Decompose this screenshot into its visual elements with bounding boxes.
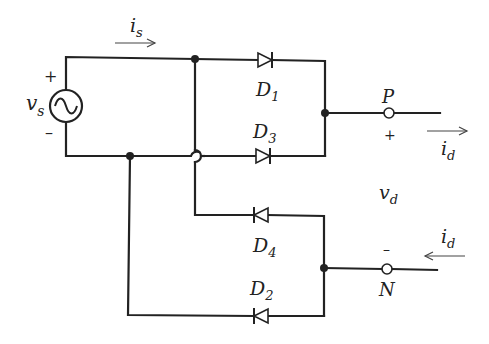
label-is: is [130,14,143,40]
wire-left-down [128,156,253,316]
source-plus-sign: + [44,67,57,86]
label-id-out: id [441,137,455,163]
label-d4: D4 [252,234,277,260]
junction-dot-top [191,55,199,63]
arrow-id-out-icon [427,127,467,135]
label-vs: vs [26,91,45,119]
ac-source-icon [50,90,82,122]
terminal-n [382,264,392,274]
junction-dot-n-node [320,264,328,272]
label-vd: vd [379,181,398,207]
junction-dot-bottom-left [126,152,134,160]
label-d3: D3 [252,120,277,146]
wire-source-top [66,57,195,89]
terminal-p [384,108,394,118]
label-d1: D1 [255,78,280,104]
wire-n-out [392,269,437,270]
label-terminal-n: N [378,279,396,300]
rectifier-circuit-diagram: is + – vs D1 D3 D4 D2 P + N – vd id id [0,0,489,344]
diode-d2-icon [254,308,268,324]
junction-dot-p-node [321,109,329,117]
arrow-is-icon [115,39,155,47]
wire-vertical-mid [195,59,253,215]
label-id-in: id [441,225,455,251]
wire-source-bottom [66,123,186,156]
wire-top-to-d1 [195,59,258,60]
wire-crossover-hop [186,152,199,156]
diode-d3-icon [256,148,270,164]
diode-d4-icon [254,207,268,223]
wire-to-n [324,268,382,269]
label-terminal-p: P [381,86,395,107]
wire-d1-to-right [272,60,325,156]
source-minus-sign: – [45,123,53,142]
diode-d1-icon [258,52,272,68]
terminal-p-plus-sign: + [384,127,396,143]
arrow-id-in-icon [425,252,465,260]
terminal-n-minus-sign: – [383,241,390,257]
wire-d4-to-right [267,215,324,316]
label-d2: D2 [249,277,274,303]
